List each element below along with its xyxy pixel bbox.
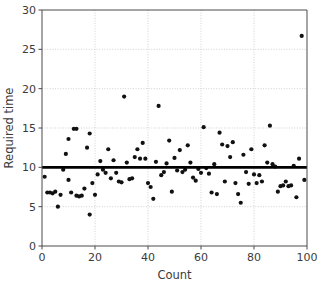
- data-point: [217, 131, 221, 135]
- data-point: [194, 179, 198, 183]
- data-point: [138, 157, 142, 161]
- x-tick-label: 20: [88, 251, 102, 264]
- data-point: [294, 195, 298, 199]
- data-point: [199, 171, 203, 175]
- data-point: [69, 190, 73, 194]
- data-point: [109, 176, 113, 180]
- data-point: [178, 148, 182, 152]
- data-point: [210, 190, 214, 194]
- data-point: [56, 205, 60, 209]
- data-point: [130, 176, 134, 180]
- data-point: [207, 172, 211, 176]
- data-point: [289, 183, 293, 187]
- data-point: [162, 170, 166, 174]
- data-point: [119, 180, 123, 184]
- x-axis-title: Count: [157, 268, 192, 282]
- data-point: [143, 157, 147, 161]
- data-point: [164, 161, 168, 165]
- data-point: [122, 94, 126, 98]
- data-point: [228, 155, 232, 159]
- data-point: [111, 158, 115, 162]
- data-point: [297, 157, 301, 161]
- data-point: [263, 143, 267, 147]
- data-point: [202, 125, 206, 129]
- data-point: [133, 155, 137, 159]
- chart-figure: 020406080100 051015202530 Count Required…: [0, 0, 322, 286]
- data-point: [241, 153, 245, 157]
- data-point: [220, 142, 224, 146]
- data-point: [88, 131, 92, 135]
- data-point: [215, 192, 219, 196]
- data-point: [284, 179, 288, 183]
- data-point: [64, 152, 68, 156]
- data-point: [90, 181, 94, 185]
- data-point: [300, 34, 304, 38]
- data-point: [249, 147, 253, 151]
- data-point: [233, 181, 237, 185]
- data-point: [236, 192, 240, 196]
- data-point: [104, 171, 108, 175]
- y-axis-title: Required time: [2, 88, 16, 169]
- x-tick-label: 40: [141, 251, 155, 264]
- data-point: [66, 137, 70, 141]
- y-tick-label: 15: [22, 122, 36, 135]
- data-point: [170, 190, 174, 194]
- x-tick-label: 0: [39, 251, 46, 264]
- data-point: [88, 212, 92, 216]
- data-point: [257, 173, 261, 177]
- data-point: [141, 141, 145, 145]
- data-point: [135, 147, 139, 151]
- data-point: [302, 178, 306, 182]
- y-tick-label: 25: [22, 43, 36, 56]
- y-tick-label: 0: [29, 240, 36, 253]
- data-point: [188, 161, 192, 165]
- data-point: [231, 140, 235, 144]
- data-point: [53, 190, 57, 194]
- data-point: [96, 172, 100, 176]
- data-point: [151, 197, 155, 201]
- y-tick-label: 5: [29, 201, 36, 214]
- data-point: [66, 178, 70, 182]
- data-point: [244, 170, 248, 174]
- data-point: [172, 156, 176, 160]
- data-point: [106, 147, 110, 151]
- data-point: [74, 127, 78, 131]
- data-point: [82, 186, 86, 190]
- data-point: [265, 161, 269, 165]
- y-tick-label: 10: [22, 161, 36, 174]
- data-point: [80, 194, 84, 198]
- scatter-plot: 020406080100 051015202530 Count Required…: [0, 0, 322, 286]
- data-point: [93, 193, 97, 197]
- data-point: [43, 175, 47, 179]
- data-point: [225, 144, 229, 148]
- data-point: [268, 124, 272, 128]
- data-point: [255, 181, 259, 185]
- data-point: [260, 179, 264, 183]
- data-point: [239, 201, 243, 205]
- data-point: [149, 185, 153, 189]
- data-point: [114, 171, 118, 175]
- data-point: [167, 138, 171, 142]
- data-point: [252, 172, 256, 176]
- data-point: [154, 160, 158, 164]
- data-point: [281, 183, 285, 187]
- data-point: [276, 190, 280, 194]
- data-point: [58, 193, 62, 197]
- data-point: [146, 181, 150, 185]
- data-point: [98, 159, 102, 163]
- x-tick-label: 80: [247, 251, 261, 264]
- data-point: [223, 179, 227, 183]
- data-point: [175, 168, 179, 172]
- data-point: [125, 161, 129, 165]
- data-point: [212, 162, 216, 166]
- x-tick-label: 100: [297, 251, 318, 264]
- x-tick-label: 60: [194, 251, 208, 264]
- data-point: [247, 182, 251, 186]
- data-point: [85, 146, 89, 150]
- y-tick-label: 30: [22, 4, 36, 17]
- data-point: [186, 143, 190, 147]
- data-point: [157, 104, 161, 108]
- y-tick-label: 20: [22, 83, 36, 96]
